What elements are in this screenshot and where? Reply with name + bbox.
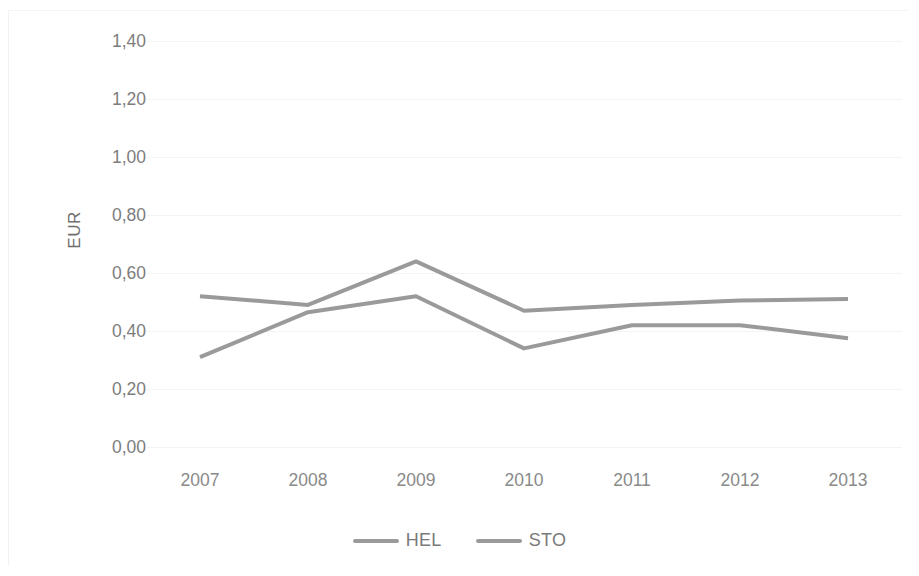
legend-label: STO (529, 530, 567, 551)
x-axis-tick-label: 2007 (155, 470, 245, 491)
plot-area (146, 28, 902, 460)
series-line-hel (200, 261, 848, 310)
chart-legend: HELSTO (0, 530, 919, 551)
x-axis-tick-label: 2009 (371, 470, 461, 491)
x-axis-tick-labels: 2007200820092010201120122013 (146, 470, 902, 500)
x-axis-tick-label: 2008 (263, 470, 353, 491)
x-axis-tick-label: 2010 (479, 470, 569, 491)
x-axis-tick-label: 2011 (587, 470, 677, 491)
x-axis-tick-label: 2012 (695, 470, 785, 491)
legend-item-sto[interactable]: STO (476, 530, 567, 551)
plot-lines (146, 28, 902, 460)
legend-item-hel[interactable]: HEL (353, 530, 442, 551)
line-swatch-icon (353, 539, 399, 543)
y-axis-tick-label: 1,00 (72, 147, 146, 168)
y-axis-tick-label: 0,60 (72, 263, 146, 284)
y-axis-tick-label: 0,20 (72, 379, 146, 400)
y-axis-tick-label: 1,20 (72, 89, 146, 110)
y-axis-tick-label: 0,80 (72, 205, 146, 226)
y-axis-tick-label: 0,00 (72, 437, 146, 458)
legend-label: HEL (406, 530, 442, 551)
y-axis-tick-label: 0,40 (72, 321, 146, 342)
y-axis-tick-labels: 0,000,200,400,600,801,001,201,40 (8, 0, 146, 576)
y-axis-tick-label: 1,40 (72, 31, 146, 52)
x-axis-tick-label: 2013 (803, 470, 893, 491)
line-swatch-icon (476, 539, 522, 543)
line-chart: EUR 0,000,200,400,600,801,001,201,40 200… (0, 0, 919, 576)
